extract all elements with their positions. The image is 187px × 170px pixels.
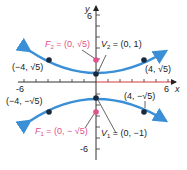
- v2-label: V2 = (0, 1): [101, 39, 142, 50]
- y-tick-min: -6: [80, 144, 88, 154]
- point-upper-left: [46, 57, 52, 63]
- upper-left-label: (−4, √5): [12, 62, 43, 72]
- x-tick-max: 6: [164, 84, 169, 94]
- x-axis-label: x: [174, 84, 180, 94]
- v1-label: V1 = (0, −1): [101, 128, 147, 139]
- vertex-v1: [93, 95, 99, 101]
- hyperbola-diagram: y 6 -6 -6 6 x F2 = (0, √5) V2 = (0, 1) (…: [0, 0, 187, 170]
- point-upper-right: [141, 57, 147, 63]
- y-axis: [96, 6, 100, 160]
- lower-left-label: (−4, −√5): [6, 96, 42, 106]
- point-lower-left: [46, 109, 52, 115]
- lower-right-label: (4, −√5): [124, 91, 155, 101]
- focus-f1: [93, 109, 99, 115]
- f1-label: F1 = (0, − √5): [35, 126, 88, 137]
- vertex-v2: [93, 71, 99, 77]
- x-tick-min: -6: [16, 84, 24, 94]
- focus-f2: [93, 57, 99, 63]
- point-lower-right: [141, 109, 147, 115]
- v2-pointer: [98, 55, 106, 72]
- x-axis: [18, 79, 176, 82]
- upper-right-label: (4, √5): [145, 64, 171, 74]
- f2-label: F2 = (0, √5): [45, 39, 90, 50]
- y-tick-max: 6: [87, 11, 92, 21]
- f2-pointer: [82, 50, 94, 58]
